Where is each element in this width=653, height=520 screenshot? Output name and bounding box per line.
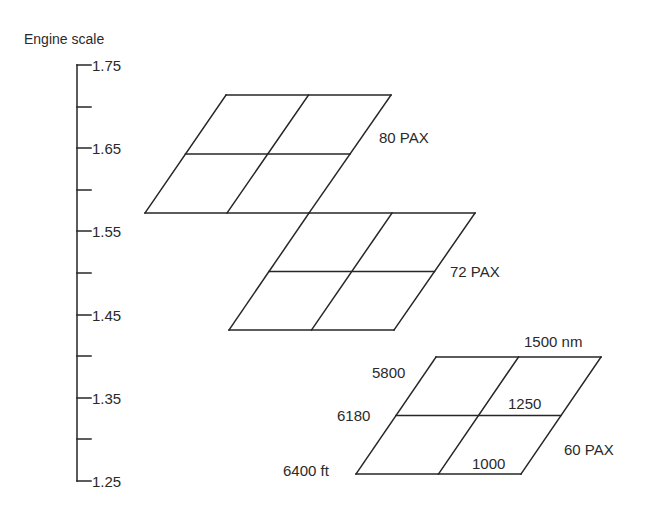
grid-72-pax: 72 PAX	[229, 213, 500, 330]
pax-label: 80 PAX	[379, 129, 429, 146]
annotation-label: 5800	[372, 364, 405, 381]
tick-label: 1.55	[92, 223, 121, 240]
grid-annotations: 1500 nm12501000580061806400 ft	[283, 333, 582, 479]
annotation-label: 1000	[472, 455, 505, 472]
annotation-label: 6180	[337, 407, 370, 424]
pax-label: 72 PAX	[450, 263, 500, 280]
tick-label: 1.35	[92, 390, 121, 407]
tick-label: 1.25	[92, 473, 121, 490]
annotation-label: 1250	[508, 395, 541, 412]
carpet-grids: 80 PAX72 PAX60 PAX	[145, 95, 614, 474]
axis-title: Engine scale	[24, 31, 104, 47]
annotation-label: 6400 ft	[283, 462, 330, 479]
engine-scale-carpet-plot: Engine scale 1.751.651.551.451.351.25 80…	[0, 0, 653, 520]
annotation-label: 1500 nm	[524, 333, 582, 350]
engine-scale-axis: 1.751.651.551.451.351.25	[77, 57, 121, 490]
pax-label: 60 PAX	[564, 441, 614, 458]
tick-label: 1.65	[92, 140, 121, 157]
grid-80-pax: 80 PAX	[145, 95, 429, 213]
tick-label: 1.75	[92, 57, 121, 74]
tick-label: 1.45	[92, 307, 121, 324]
